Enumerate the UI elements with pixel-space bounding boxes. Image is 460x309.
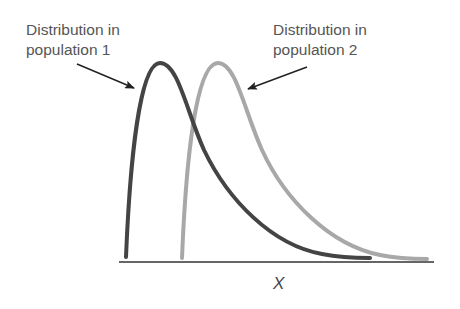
curve-population-1 bbox=[126, 63, 370, 258]
distribution-chart bbox=[0, 0, 460, 309]
arrow-population-1 bbox=[77, 64, 134, 88]
x-axis-label: X bbox=[273, 274, 284, 294]
curve-population-2 bbox=[182, 63, 427, 259]
arrow-population-2 bbox=[248, 67, 307, 89]
